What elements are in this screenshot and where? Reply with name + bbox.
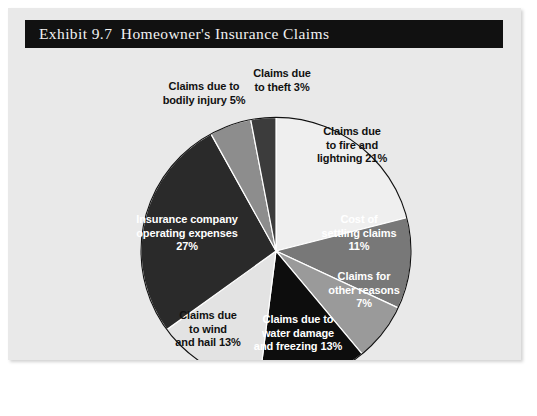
pie-label-other-reasons: Claims for other reasons 7% [305,270,423,311]
pie-label-theft: Claims due to theft 3% [236,67,328,94]
pie-chart-svg [8,8,521,360]
pie-label-cost-of-settling-claims: Cost of settling claims 11% [300,213,418,254]
figure-panel: Exhibit 9.7 Homeowner's Insurance Claims… [8,8,521,360]
pie-label-operating-expenses: Insurance company operating expenses 27% [117,213,257,254]
pie-label-wind-and-hail: Claims due to wind and hail 13% [156,309,260,350]
pie-label-fire-and-lightning: Claims due to fire and lightning 21% [297,125,407,166]
pie-chart: Claims due to fire and lightning 21%Cost… [8,8,521,360]
